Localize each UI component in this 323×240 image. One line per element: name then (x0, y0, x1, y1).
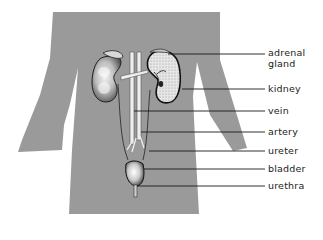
label-artery: artery (268, 126, 298, 137)
label-kidney: kidney (268, 83, 301, 94)
label-urethra: urethra (268, 180, 304, 191)
label-adrenal-gland: adrenal gland (268, 47, 305, 69)
label-bladder: bladder (268, 163, 306, 174)
label-vein: vein (268, 105, 289, 116)
label-ureter: ureter (268, 145, 298, 156)
label-adrenal-gland-line2: gland (268, 58, 305, 69)
label-adrenal-gland-line1: adrenal (268, 47, 305, 58)
